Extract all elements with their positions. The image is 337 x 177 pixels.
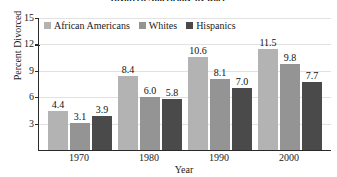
bar-group-2000: 11.59.87.7 — [255, 18, 325, 150]
bar-2000-1[interactable]: 9.8 — [280, 64, 300, 150]
x-axis-title: Year — [38, 164, 330, 175]
bar-1990-0[interactable]: 10.6 — [188, 57, 208, 150]
legend-swatch-icon-whites — [139, 22, 146, 29]
legend: African Americans Whites Hispanics — [44, 20, 236, 31]
bar-value-label-2000-0: 11.5 — [259, 38, 276, 48]
bar-1990-1[interactable]: 8.1 — [210, 79, 230, 150]
bar-value-label-1990-1: 8.1 — [214, 68, 227, 78]
bar-wrap-2000-2: 7.7 — [302, 18, 322, 150]
bar-wrap-1970-1: 3.1 — [70, 18, 90, 150]
bar-wrap-1980-0: 8.4 — [118, 18, 138, 150]
y-axis-ticks: 15 12 9 6 3 — [0, 18, 34, 150]
bar-2000-2[interactable]: 7.7 — [302, 82, 322, 150]
bar-wrap-2000-1: 9.8 — [280, 18, 300, 150]
plot-area: 4.43.13.98.46.05.810.68.17.011.59.87.7 — [38, 18, 331, 151]
y-tick-label-9: 9 — [8, 66, 34, 76]
bar-value-label-1970-2: 3.9 — [96, 105, 109, 115]
y-tick-label-12: 12 — [8, 39, 34, 49]
bar-1970-1[interactable]: 3.1 — [70, 123, 90, 150]
bar-wrap-1980-2: 5.8 — [162, 18, 182, 150]
bar-1980-2[interactable]: 5.8 — [162, 99, 182, 150]
bar-value-label-1980-2: 5.8 — [166, 88, 179, 98]
bar-groups: 4.43.13.98.46.05.810.68.17.011.59.87.7 — [39, 18, 331, 150]
bar-value-label-1990-2: 7.0 — [236, 77, 249, 87]
bar-wrap-1990-1: 8.1 — [210, 18, 230, 150]
bar-2000-0[interactable]: 11.5 — [258, 49, 278, 150]
bar-wrap-1990-2: 7.0 — [232, 18, 252, 150]
y-tick-label-3: 3 — [8, 119, 34, 129]
bar-wrap-2000-0: 11.5 — [258, 18, 278, 150]
bar-1980-1[interactable]: 6.0 — [140, 97, 160, 150]
legend-swatch-icon-hispanics — [186, 22, 193, 29]
bar-value-label-1990-0: 10.6 — [189, 46, 207, 56]
bar-1990-2[interactable]: 7.0 — [232, 88, 252, 150]
bar-1970-0[interactable]: 4.4 — [48, 111, 68, 150]
bar-value-label-1980-0: 8.4 — [122, 65, 135, 75]
bar-value-label-2000-1: 9.8 — [284, 53, 297, 63]
bar-group-1980: 8.46.05.8 — [115, 18, 185, 150]
bar-1980-0[interactable]: 8.4 — [118, 76, 138, 150]
chart-title: Divorced Americans, by Race — [0, 0, 337, 1]
bar-value-label-1970-0: 4.4 — [52, 100, 65, 110]
bar-1970-2[interactable]: 3.9 — [92, 116, 112, 150]
bar-value-label-1980-1: 6.0 — [144, 86, 157, 96]
bar-value-label-1970-1: 3.1 — [74, 112, 87, 122]
bar-chart: Divorced Americans, by Race Percent Divo… — [0, 0, 337, 177]
legend-swatch-icon-african-americans — [44, 22, 51, 29]
legend-label-hispanics: Hispanics — [196, 20, 235, 31]
legend-item-hispanics: Hispanics — [186, 20, 235, 31]
bar-wrap-1980-1: 6.0 — [140, 18, 160, 150]
legend-label-african-americans: African Americans — [54, 20, 130, 31]
legend-label-whites: Whites — [149, 20, 177, 31]
bar-group-1970: 4.43.13.9 — [45, 18, 115, 150]
y-tick-label-15: 15 — [8, 13, 34, 23]
legend-item-whites: Whites — [139, 20, 177, 31]
y-tick-label-6: 6 — [8, 92, 34, 102]
bar-wrap-1990-0: 10.6 — [188, 18, 208, 150]
bar-value-label-2000-2: 7.7 — [306, 71, 319, 81]
legend-item-african-americans: African Americans — [44, 20, 130, 31]
bar-group-1990: 10.68.17.0 — [185, 18, 255, 150]
bar-wrap-1970-0: 4.4 — [48, 18, 68, 150]
bar-wrap-1970-2: 3.9 — [92, 18, 112, 150]
